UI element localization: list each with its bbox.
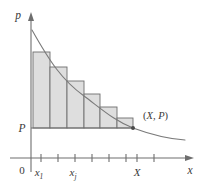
rectangle-bar-2: [50, 67, 67, 128]
marked-point-dot: [131, 126, 135, 130]
rectangle-bar-3: [67, 81, 84, 128]
origin-label: 0: [19, 164, 25, 176]
tick-label-x1-subscript: 1: [40, 172, 44, 181]
tick-label-X: X: [133, 166, 142, 178]
demand-curve-figure: p x 0 P x1 xj X (X, P): [0, 0, 203, 189]
y-axis-arrowhead: [28, 12, 34, 21]
marked-point-label: (X, P): [143, 110, 169, 122]
rectangle-bar-1: [33, 52, 50, 128]
x-axis-arrowhead: [185, 155, 194, 161]
rectangle-group: [33, 52, 133, 128]
tick-label-xj-subscript: j: [73, 172, 76, 181]
p-level-label: P: [17, 122, 25, 134]
point-label-close-paren: ): [165, 110, 169, 122]
x-axis-label: x: [186, 164, 193, 176]
y-axis-label: p: [14, 9, 21, 22]
svg-text:xj: xj: [69, 166, 77, 181]
rectangle-bar-4: [84, 94, 100, 128]
tick-label-xj: xj: [69, 166, 77, 181]
figure-container: p x 0 P x1 xj X (X, P): [0, 0, 203, 189]
svg-text:x1: x1: [34, 166, 44, 181]
tick-label-x1: x1: [34, 166, 44, 181]
